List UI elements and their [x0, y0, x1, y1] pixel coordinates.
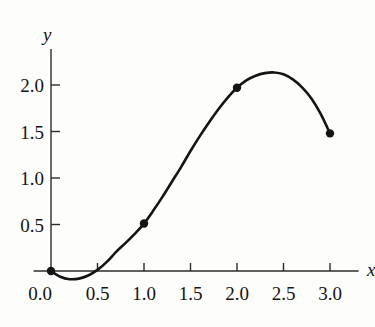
- y-tick-label: 1.0: [20, 169, 44, 188]
- y-tick-label: 0.5: [20, 215, 44, 234]
- y-axis-ticks: [51, 85, 60, 225]
- data-point-marker: [326, 129, 334, 137]
- x-tick-label: 0.5: [86, 284, 110, 303]
- data-point-marker: [233, 84, 241, 92]
- x-tick-label: 3.0: [318, 284, 342, 303]
- chart-plot-area: [0, 0, 375, 327]
- x-axis-ticks: [98, 263, 331, 271]
- y-tick-label: 2.0: [20, 76, 44, 95]
- x-tick-label: 1.5: [179, 284, 203, 303]
- data-point-markers: [47, 84, 334, 276]
- y-axis-label: y: [43, 25, 51, 44]
- y-tick-label: 1.5: [20, 122, 44, 141]
- x-tick-label: 2.0: [225, 284, 249, 303]
- data-curve: [51, 72, 330, 279]
- x-tick-label: 2.5: [272, 284, 296, 303]
- data-point-marker: [47, 267, 55, 275]
- data-point-marker: [140, 219, 148, 227]
- chart-figure: 0.00.51.01.52.02.53.0 0.51.01.52.0 x y: [0, 0, 375, 327]
- x-axis-label: x: [367, 260, 375, 279]
- x-tick-label: 0.0: [28, 284, 52, 303]
- x-tick-label: 1.0: [132, 284, 156, 303]
- axes-group: [34, 50, 358, 271]
